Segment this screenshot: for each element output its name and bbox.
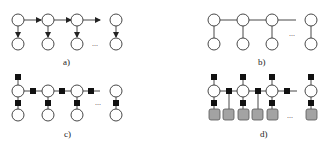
factor-square	[59, 88, 65, 94]
panel-d	[208, 74, 317, 120]
ellipsis: ...	[92, 39, 98, 48]
hidden-node	[305, 14, 317, 26]
hidden-node	[42, 85, 54, 97]
factor-square	[255, 88, 261, 94]
hidden-node	[71, 14, 83, 26]
hidden-node	[12, 14, 24, 26]
hidden-node	[42, 14, 54, 26]
hidden-node	[208, 14, 220, 26]
panel-b	[208, 14, 317, 50]
factor-square	[284, 88, 290, 94]
hidden-node	[71, 85, 83, 97]
hidden-node	[110, 85, 122, 97]
hidden-node	[305, 85, 317, 97]
factor-square	[308, 100, 314, 106]
observed-node	[12, 38, 24, 50]
observed-node	[266, 38, 278, 50]
observed-box	[209, 109, 220, 120]
panel-c	[12, 74, 122, 121]
factor-square	[211, 74, 217, 80]
factor-square	[240, 74, 246, 80]
panel-a	[12, 14, 122, 50]
panel-label-c: c)	[64, 129, 71, 139]
observed-node	[237, 38, 249, 50]
observed-box	[252, 109, 263, 120]
observed-node	[71, 38, 83, 50]
hidden-node	[266, 14, 278, 26]
factor-square	[269, 74, 275, 80]
observed-node	[71, 109, 83, 121]
factor-square	[15, 74, 21, 80]
observed-box	[223, 109, 234, 120]
factor-square	[74, 100, 80, 106]
observed-node	[208, 38, 220, 50]
observed-node	[305, 38, 317, 50]
factor-square	[269, 100, 275, 106]
factor-square	[308, 74, 314, 80]
panel-label-b: b)	[258, 57, 266, 67]
factor-square	[211, 100, 217, 106]
observed-node	[42, 38, 54, 50]
factor-square	[45, 100, 51, 106]
factor-square	[30, 88, 36, 94]
observed-box	[306, 109, 317, 120]
hidden-node	[237, 14, 249, 26]
panel-label-d: d)	[260, 129, 268, 139]
observed-node	[110, 38, 122, 50]
hidden-node	[237, 85, 249, 97]
ellipsis: ...	[95, 98, 101, 107]
hidden-node	[208, 85, 220, 97]
hidden-node	[266, 85, 278, 97]
observed-node	[42, 109, 54, 121]
hidden-node	[12, 85, 24, 97]
factor-square	[240, 100, 246, 106]
observed-box	[238, 109, 249, 120]
factor-square	[226, 88, 232, 94]
factor-square	[88, 88, 94, 94]
factor-square	[15, 100, 21, 106]
observed-node	[110, 109, 122, 121]
ellipsis: ...	[287, 111, 293, 120]
diagram-canvas: ... a) ... b)	[0, 0, 328, 143]
observed-box	[267, 109, 278, 120]
ellipsis: ...	[289, 29, 295, 38]
hidden-node	[110, 14, 122, 26]
panel-label-a: a)	[63, 57, 70, 67]
factor-square	[113, 100, 119, 106]
observed-node	[12, 109, 24, 121]
